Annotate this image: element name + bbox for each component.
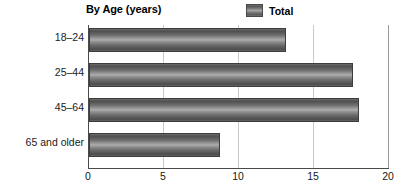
- plot-area: [88, 25, 388, 168]
- x-axis-line: [88, 168, 389, 169]
- chart-legend: Total: [246, 4, 293, 17]
- gridline-20: [388, 25, 389, 168]
- bar-25-44: [89, 63, 353, 87]
- x-tick-label-15: 15: [307, 170, 319, 182]
- category-label-3: 65 and older: [26, 136, 84, 148]
- value-axis-labels: 05101520: [0, 170, 407, 190]
- x-tick-label-20: 20: [382, 170, 394, 182]
- legend-label-total: Total: [269, 5, 293, 17]
- bar-18-24: [89, 28, 286, 52]
- category-label-0: 18–24: [55, 31, 84, 43]
- category-label-1: 25–44: [55, 66, 84, 78]
- chart-title: By Age (years): [86, 3, 161, 15]
- y-axis-line: [88, 25, 89, 168]
- x-tick-label-5: 5: [160, 170, 166, 182]
- category-axis-labels: 18–24 25–44 45–64 65 and older: [0, 25, 84, 168]
- bar-45-64: [89, 98, 359, 122]
- bar-chart: By Age (years) Total 18–24 25–44 45–64 6…: [0, 0, 407, 195]
- bar-65-and-older: [89, 133, 220, 157]
- gridline-15: [313, 25, 314, 168]
- legend-swatch-total: [246, 4, 263, 17]
- x-tick-label-0: 0: [85, 170, 91, 182]
- category-label-2: 45–64: [55, 101, 84, 113]
- x-tick-label-10: 10: [232, 170, 244, 182]
